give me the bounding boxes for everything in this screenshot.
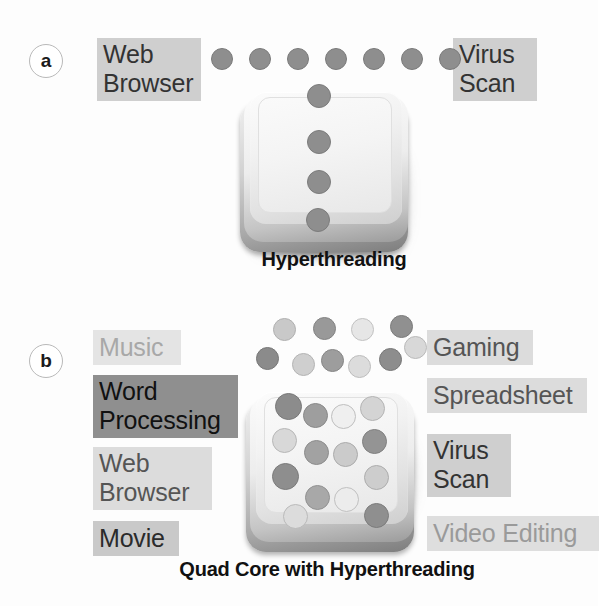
thread-dot <box>348 355 371 378</box>
app-label-web-browser: Web Browser <box>97 38 201 101</box>
app-label-web-browser: Web Browser <box>93 447 212 510</box>
cpu-chip-quad-core <box>244 388 420 523</box>
panel-badge-a: a <box>29 44 63 78</box>
core-thread-dot <box>303 403 328 428</box>
thread-dot <box>363 48 385 70</box>
core-thread-dot <box>360 396 385 421</box>
app-label-virus-scan: Virus Scan <box>427 434 511 497</box>
thread-dot <box>325 48 347 70</box>
core-thread-dot <box>272 463 299 490</box>
core-thread-dot <box>334 487 359 512</box>
thread-dot <box>249 48 271 70</box>
chip-die-surface <box>258 97 392 213</box>
thread-dot <box>390 315 413 338</box>
thread-dot <box>313 317 336 340</box>
thread-dot <box>287 48 309 70</box>
thread-dot <box>292 353 315 376</box>
panel-badge-b: b <box>29 344 63 378</box>
core-thread-dot <box>331 404 356 429</box>
app-label-movie: Movie <box>93 521 179 556</box>
caption-hyperthreading: Hyperthreading <box>0 248 598 271</box>
thread-dot <box>401 48 423 70</box>
thread-dot <box>439 48 461 70</box>
thread-dot <box>351 318 374 341</box>
core-thread-dot <box>283 504 308 529</box>
thread-dot <box>211 48 233 70</box>
core-thread-dot <box>275 393 302 420</box>
core-thread-dot <box>272 428 297 453</box>
core-thread-dot <box>333 442 358 467</box>
core-thread-dot <box>307 170 331 194</box>
core-thread-dot <box>304 440 329 465</box>
app-label-word-processing: Word Processing <box>93 375 238 438</box>
app-label-virus-scan: Virus Scan <box>453 38 537 101</box>
core-thread-dot <box>364 465 389 490</box>
thread-dot <box>273 318 296 341</box>
core-thread-dot <box>306 208 330 232</box>
thread-dot <box>379 348 402 371</box>
core-thread-dot <box>305 485 330 510</box>
app-label-music: Music <box>93 330 181 365</box>
app-label-spreadsheet: Spreadsheet <box>427 378 587 413</box>
thread-dot <box>321 349 344 372</box>
core-thread-dot <box>307 84 331 108</box>
thread-dot <box>256 347 279 370</box>
core-thread-dot <box>307 130 331 154</box>
core-thread-dot <box>362 429 387 454</box>
caption-quad-core-hyperthreading: Quad Core with Hyperthreading <box>0 558 598 581</box>
app-label-gaming: Gaming <box>427 330 533 365</box>
thread-dot <box>404 336 427 359</box>
app-label-video-editing: Video Editing <box>427 516 599 551</box>
core-thread-dot <box>364 503 389 528</box>
